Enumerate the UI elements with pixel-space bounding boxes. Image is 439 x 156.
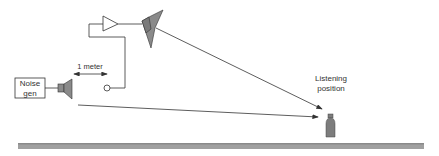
amplifier-icon xyxy=(103,16,118,31)
playback-sound-path xyxy=(156,28,322,109)
noise-gen-line1: Noise xyxy=(15,79,45,89)
noise-generator-label: Noise gen xyxy=(15,78,45,99)
listening-line2: position xyxy=(308,84,354,94)
diagram-canvas xyxy=(0,0,439,156)
playback-speaker-icon xyxy=(142,10,163,48)
listening-line1: Listening xyxy=(308,74,354,84)
listening-position-label: Listening position xyxy=(308,74,354,94)
noise-gen-line2: gen xyxy=(15,89,45,99)
mic-to-amp-wire xyxy=(89,24,125,88)
reference-sound-path xyxy=(78,105,318,117)
microphone-icon xyxy=(104,85,110,91)
distance-label: 1 meter xyxy=(70,62,110,72)
listener-icon xyxy=(326,114,335,137)
floor xyxy=(18,143,424,149)
reference-speaker-icon xyxy=(58,79,72,99)
